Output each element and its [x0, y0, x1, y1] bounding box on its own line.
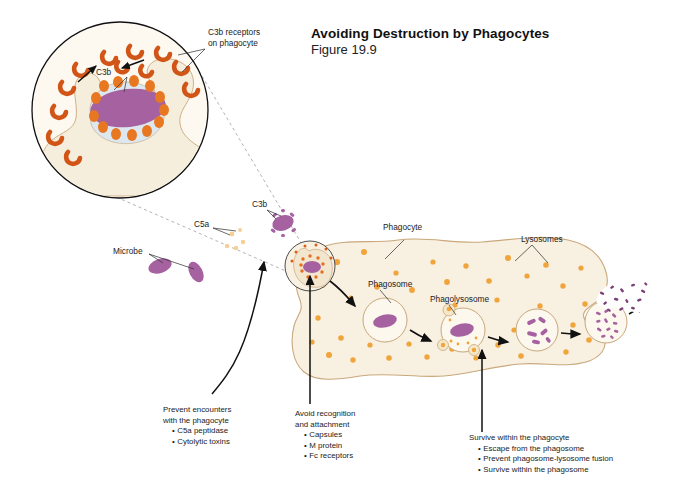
- label-c3b-receptors-line2: on phagocyte: [208, 38, 258, 48]
- callout-avoid-head1: Avoid recognition: [295, 409, 355, 420]
- list-item: Capsules: [304, 430, 355, 441]
- callout-survive-head1: Survive within the phagocyte: [469, 433, 613, 444]
- callout-prevent-encounters: Prevent encounters with the phagocyte C5…: [163, 405, 231, 447]
- label-c3b-receptors: C3b receptors on phagocyte: [208, 27, 260, 48]
- list-item: Escape from the phagosome: [478, 444, 613, 455]
- list-item: Prevent phagosome-lysosome fusion: [478, 454, 613, 465]
- label-microbe: Microbe: [113, 246, 143, 257]
- figure-title-block: Avoiding Destruction by Phagocytes Figur…: [311, 26, 549, 58]
- callout-prevent-head1: Prevent encounters: [163, 405, 231, 416]
- list-item: M protein: [304, 441, 355, 452]
- label-c3b: C3b: [252, 199, 267, 210]
- figure-number: Figure 19.9: [311, 42, 549, 58]
- free-microbes: [146, 256, 206, 285]
- callout-avoid-recognition: Avoid recognition and attachment Capsule…: [295, 409, 355, 462]
- list-item: Survive within the phagosome: [478, 465, 613, 476]
- list-item: C5a peptidase: [172, 426, 231, 437]
- inset-detail-circle: [32, 22, 214, 198]
- label-c3b-inset: C3b: [96, 67, 111, 78]
- callout-survive-within: Survive within the phagocyte Escape from…: [469, 433, 613, 475]
- label-c5a: C5a: [194, 219, 209, 230]
- c5a-molecules: [225, 228, 245, 250]
- callout-prevent-list: C5a peptidase Cytolytic toxins: [163, 426, 231, 447]
- label-phagolysosome: Phagolysosome: [430, 294, 489, 305]
- list-item: Cytolytic toxins: [172, 437, 231, 448]
- phagosome-vesicle: [363, 298, 407, 342]
- figure-root: Avoiding Destruction by Phagocytes Figur…: [0, 0, 677, 501]
- arrow-prevent: [212, 262, 264, 394]
- callout-avoid-head2: and attachment: [295, 420, 355, 431]
- list-item: Fc receptors: [304, 451, 355, 462]
- callout-prevent-head2: with the phagocyte: [163, 416, 231, 427]
- label-phagosome: Phagosome: [368, 279, 412, 290]
- callout-avoid-list: Capsules M protein Fc receptors: [295, 430, 355, 462]
- label-phagocyte: Phagocyte: [383, 222, 422, 233]
- callout-survive-list: Escape from the phagosome Prevent phagos…: [469, 444, 613, 476]
- digestion-vesicle: [516, 309, 558, 351]
- label-c3b-receptors-line1: C3b receptors: [208, 27, 260, 37]
- page-title: Avoiding Destruction by Phagocytes: [311, 26, 549, 42]
- label-lysosomes: Lysosomes: [521, 234, 563, 245]
